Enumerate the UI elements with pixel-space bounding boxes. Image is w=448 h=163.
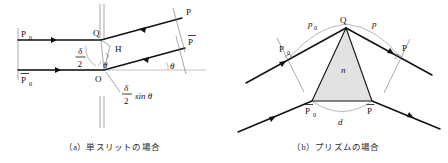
svg-text:P: P: [279, 44, 284, 54]
label-P-upper: P: [402, 43, 407, 53]
arrowhead-incident-upper: [51, 37, 57, 43]
segment-Q-H: [101, 40, 110, 46]
label-O: O: [95, 74, 102, 84]
svg-text:δ: δ: [124, 83, 129, 93]
label-P0-upper: P 0: [279, 44, 290, 56]
label-d-base: d: [338, 117, 343, 127]
leader-line-path-difference: [106, 72, 120, 92]
svg-text:p: p: [307, 19, 313, 29]
angle-arc-delta: [86, 46, 96, 66]
arrowhead-lower-right: [407, 112, 414, 118]
svg-text:sin θ: sin θ: [135, 91, 153, 101]
svg-text:0: 0: [29, 35, 32, 41]
exit-wavefront-lower: [176, 36, 186, 74]
label-theta-axis: θ: [170, 61, 175, 71]
label-P0-lower: P 0: [305, 105, 317, 118]
arrowhead-incident-lower: [55, 67, 61, 73]
prism-diagram: Q P 0 P P 0 P p 0 p d n: [224, 0, 448, 140]
caption-panel-b: （b）プリズムの場合: [224, 140, 448, 152]
svg-text:P: P: [188, 37, 193, 47]
label-Q: Q: [93, 28, 100, 38]
svg-text:P: P: [367, 106, 372, 116]
arrowhead-lower-left: [269, 116, 276, 122]
label-H: H: [115, 44, 122, 54]
label-theta-inner: θ: [103, 60, 108, 70]
svg-text:2: 2: [124, 96, 129, 106]
label-n-index: n: [341, 65, 346, 75]
exit-wavefront-upper: [173, 8, 185, 52]
angle-arc-theta-axis: [167, 63, 169, 71]
outgoing-ray-lower-right: [372, 101, 440, 129]
label-P0-lower: P 0: [21, 74, 33, 87]
svg-text:P: P: [21, 75, 26, 85]
angle-arc-theta-inner: [98, 61, 101, 66]
label-Q: Q: [340, 15, 347, 25]
svg-text:P: P: [21, 29, 26, 39]
panel-prism: Q P 0 P P 0 P p 0 p d n （b）プ: [224, 0, 448, 163]
label-P0-upper: P 0: [21, 29, 32, 41]
svg-text:2: 2: [78, 59, 83, 69]
caption-panel-a: （a）単スリットの場合: [0, 140, 224, 152]
svg-text:0: 0: [314, 25, 317, 31]
svg-text:δ: δ: [78, 46, 83, 56]
single-slit-diagram: P 0 P 0 Q O H P P δ 2 θ: [0, 0, 224, 140]
label-P-lower: P: [367, 105, 375, 117]
figure-root: P 0 P 0 Q O H P P δ 2 θ: [0, 0, 448, 163]
label-path-difference: δ 2 sin θ: [122, 83, 153, 106]
label-p-path: p: [371, 19, 377, 29]
label-P-lower: P: [188, 36, 196, 48]
arc-d-base: [312, 101, 372, 112]
label-p0-path: p 0: [307, 19, 317, 31]
svg-text:0: 0: [29, 81, 32, 87]
label-delta-over-2: δ 2: [76, 46, 86, 69]
label-P-upper: P: [186, 7, 191, 17]
svg-text:P: P: [305, 106, 310, 116]
svg-text:0: 0: [313, 112, 316, 118]
panel-single-slit: P 0 P 0 Q O H P P δ 2 θ: [0, 0, 224, 163]
svg-text:0: 0: [287, 50, 290, 56]
